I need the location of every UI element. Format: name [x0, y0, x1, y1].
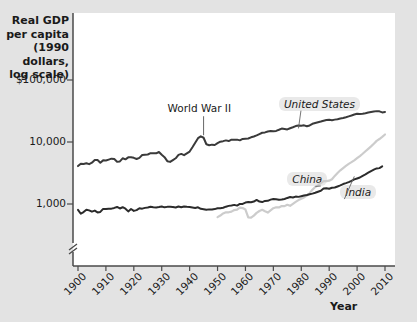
leader-line: [344, 176, 354, 199]
chart-canvas: [0, 0, 417, 322]
chart-figure: Real GDPper capita(1990 dollars,log scal…: [0, 0, 417, 322]
leader-lines: [204, 111, 355, 199]
series-line-united-states: [78, 111, 385, 166]
series-line-china: [218, 134, 385, 217]
series-paths: [78, 111, 385, 218]
tick-marks: [67, 80, 385, 271]
